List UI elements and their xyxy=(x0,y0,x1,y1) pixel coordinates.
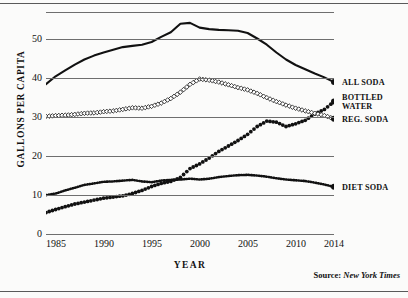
gridline-0 xyxy=(46,234,334,235)
gridline-top xyxy=(46,12,334,13)
legend: ALL SODABOTTLED WATERREG. SODADIET SODA xyxy=(342,0,408,298)
series-reg-soda xyxy=(46,77,334,122)
gridline-20 xyxy=(46,156,334,157)
y-axis-tick-labels: 01020304050 xyxy=(14,12,42,234)
gridline-40 xyxy=(46,78,334,79)
gridline-30 xyxy=(46,117,334,118)
x-tick-2000: 2000 xyxy=(180,238,220,250)
legend-label-all-soda: ALL SODA xyxy=(342,78,408,88)
y-tick-40: 40 xyxy=(20,73,42,83)
legend-label-reg-soda: REG. SODA xyxy=(342,115,408,125)
series-diet-soda xyxy=(46,175,334,195)
x-tick-2010: 2010 xyxy=(276,238,316,250)
y-tick-30: 30 xyxy=(20,112,42,122)
soda-consumption-chart: GALLONS PER CAPITA 01020304050 198519901… xyxy=(0,0,408,298)
gridline-10 xyxy=(46,195,334,196)
source-prefix: Source: xyxy=(314,270,342,280)
x-tick-1995: 1995 xyxy=(132,238,172,250)
series-layer xyxy=(46,12,334,234)
x-axis-tick-labels: 1985199019952000200520102014 xyxy=(46,238,334,252)
plot-area xyxy=(46,12,334,234)
source-publication: New York Times xyxy=(343,270,400,280)
y-tick-20: 20 xyxy=(20,151,42,161)
y-tick-10: 10 xyxy=(20,190,42,200)
x-axis-title: YEAR xyxy=(46,260,334,270)
gridline-50 xyxy=(46,39,334,40)
source-credit: Source: New York Times xyxy=(314,270,401,280)
x-tick-2005: 2005 xyxy=(228,238,268,250)
x-tick-1990: 1990 xyxy=(84,238,124,250)
legend-label-bottled-water: BOTTLED WATER xyxy=(342,93,408,112)
legend-label-diet-soda: DIET SODA xyxy=(342,183,408,193)
series-all-soda xyxy=(46,23,334,85)
x-tick-1985: 1985 xyxy=(36,238,76,250)
y-tick-50: 50 xyxy=(20,34,42,44)
